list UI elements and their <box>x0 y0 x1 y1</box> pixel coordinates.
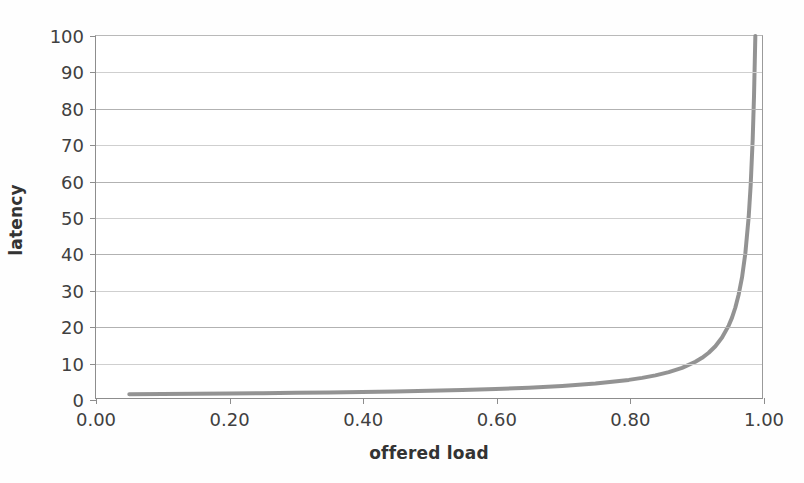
y-axis-tick-label: 90 <box>61 62 84 83</box>
plot-area: 01020304050607080901000.000.200.400.600.… <box>95 35 763 399</box>
y-axis-tick <box>90 72 96 73</box>
y-axis-tick-label: 40 <box>61 244 84 265</box>
y-axis-tick <box>90 145 96 146</box>
y-axis-title: latency <box>6 150 26 290</box>
x-axis-tick <box>96 398 97 404</box>
gridline-horizontal <box>96 291 762 292</box>
gridline-horizontal <box>96 72 762 73</box>
latency-curve-svg <box>96 36 762 398</box>
y-axis-tick <box>90 109 96 110</box>
latency-curve-path <box>129 36 755 394</box>
y-axis-tick-label: 100 <box>50 26 84 47</box>
gridline-horizontal <box>96 182 762 183</box>
y-axis-tick-label: 50 <box>61 208 84 229</box>
x-axis-tick-label: 0.20 <box>210 409 250 430</box>
y-axis-tick <box>90 218 96 219</box>
y-axis-tick-label: 10 <box>61 353 84 374</box>
y-axis-tick <box>90 327 96 328</box>
y-axis-tick <box>90 254 96 255</box>
x-axis-tick <box>764 398 765 404</box>
gridline-horizontal <box>96 218 762 219</box>
y-axis-tick <box>90 364 96 365</box>
x-axis-tick <box>363 398 364 404</box>
x-axis-tick-label: 1.00 <box>744 409 784 430</box>
y-axis-tick-label: 20 <box>61 317 84 338</box>
y-axis-tick-label: 0 <box>73 390 84 411</box>
x-axis-tick <box>230 398 231 404</box>
gridline-horizontal <box>96 254 762 255</box>
gridline-horizontal <box>96 327 762 328</box>
x-axis-tick-label: 0.40 <box>343 409 383 430</box>
chart-figure: latency 01020304050607080901000.000.200.… <box>0 0 804 483</box>
y-axis-tick <box>90 36 96 37</box>
y-axis-tick <box>90 291 96 292</box>
y-axis-tick <box>90 182 96 183</box>
x-axis-tick-label: 0.80 <box>610 409 650 430</box>
x-axis-title: offered load <box>95 443 763 463</box>
y-axis-tick-label: 30 <box>61 280 84 301</box>
y-axis-tick-label: 80 <box>61 98 84 119</box>
x-axis-tick <box>630 398 631 404</box>
y-axis-tick-label: 70 <box>61 135 84 156</box>
x-axis-tick-label: 0.00 <box>76 409 116 430</box>
gridline-horizontal <box>96 364 762 365</box>
x-axis-tick <box>497 398 498 404</box>
x-axis-tick-label: 0.60 <box>477 409 517 430</box>
gridline-horizontal <box>96 145 762 146</box>
y-axis-tick-label: 60 <box>61 171 84 192</box>
gridline-horizontal <box>96 109 762 110</box>
